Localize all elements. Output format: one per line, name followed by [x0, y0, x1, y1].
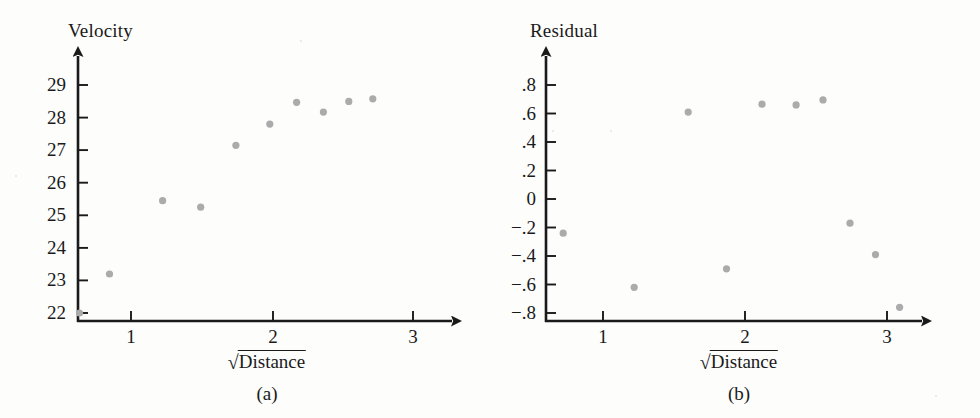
scan-speck [300, 40, 302, 42]
x-tick-label: 1 [598, 326, 608, 348]
y-tick-label: 29 [34, 74, 66, 96]
y-tick-label: −.8 [494, 302, 536, 324]
panel-caption-b: (b) [728, 383, 750, 405]
y-tick-label: 24 [34, 237, 66, 259]
x-tick-label: 3 [882, 326, 892, 348]
data-points-a [76, 95, 377, 316]
y-tick-label: −.2 [494, 217, 536, 239]
x-tick-label: 3 [408, 326, 418, 348]
y-tick-label: .4 [500, 131, 536, 153]
x-axis-title-sqrt-distance: √Distance [700, 350, 778, 373]
y-tick-label: .2 [500, 160, 536, 182]
y-tick-label: 28 [34, 107, 66, 129]
radicand-label: Distance [710, 350, 778, 373]
y-tick-label: 0 [500, 188, 536, 210]
y-tick-label: −.6 [494, 274, 536, 296]
x-tick-label: 2 [740, 326, 750, 348]
x-tick-label: 1 [126, 326, 136, 348]
y-tick-label: 25 [34, 204, 66, 226]
panel-caption-a: (a) [256, 383, 277, 405]
x-axis-title-sqrt-distance: √Distance [228, 350, 306, 373]
scan-speck [15, 175, 17, 177]
y-tick-label: 26 [34, 172, 66, 194]
scan-speck [935, 395, 937, 397]
chart-panel-a: Velocity [0, 0, 490, 418]
figure-root: Velocity [0, 0, 980, 418]
y-tick-label: −.4 [494, 245, 536, 267]
y-tick-label: 23 [34, 269, 66, 291]
y-tick-label: .8 [500, 74, 536, 96]
y-tick-label: 27 [34, 139, 66, 161]
chart-panel-b: Residual [490, 0, 980, 418]
scan-speck [610, 130, 612, 132]
y-tick-label: 22 [34, 302, 66, 324]
scan-speck [552, 130, 554, 132]
radicand-label: Distance [238, 350, 306, 373]
x-tick-label: 2 [268, 326, 278, 348]
y-tick-label: .6 [500, 103, 536, 125]
data-points-b [560, 96, 904, 311]
